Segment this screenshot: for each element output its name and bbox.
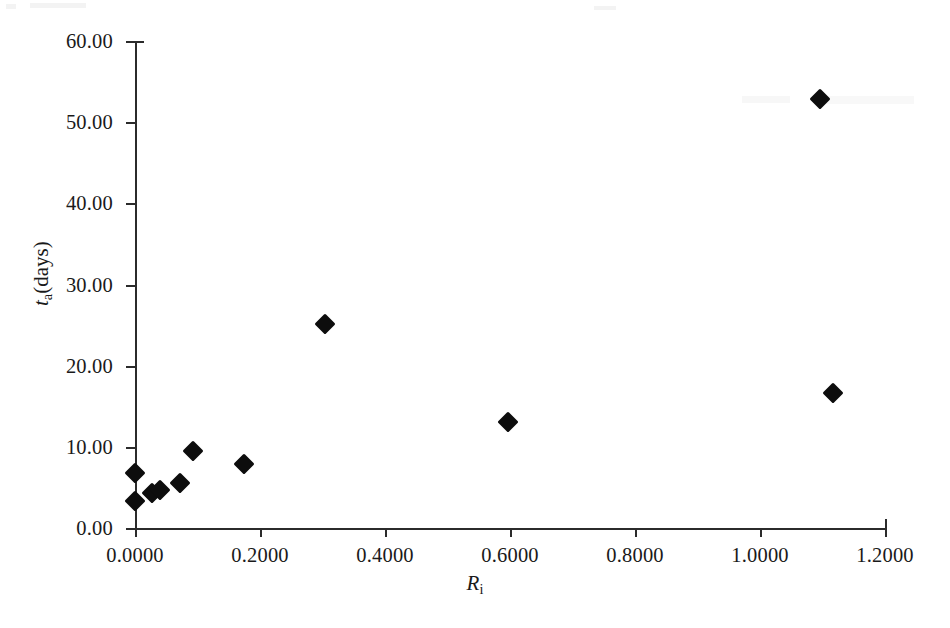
- x-axis-title-symbol: R: [467, 571, 480, 595]
- y-axis-tick: 10.00: [126, 447, 135, 449]
- y-axis-tick: 0.00: [126, 528, 135, 530]
- data-point-marker: [809, 88, 830, 109]
- y-axis-tick-label: 20.00: [66, 354, 113, 377]
- x-axis-tick-label: 0.8000: [606, 544, 664, 567]
- y-axis-tick: 40.00: [126, 203, 135, 205]
- scan-artifact: [6, 4, 16, 9]
- x-axis-tick: [260, 528, 262, 537]
- x-axis-tick: [885, 528, 887, 537]
- y-axis-title-symbol: t: [29, 300, 53, 306]
- data-point-marker: [498, 411, 519, 432]
- plot-area: 0.0010.0020.0030.0040.0050.0060.00 0.000…: [135, 41, 885, 528]
- data-point-marker: [124, 462, 145, 483]
- x-axis-title: Ri: [0, 571, 950, 598]
- x-axis-tick-label: 0.0000: [106, 544, 164, 567]
- data-point-marker: [183, 440, 204, 461]
- y-axis-tick-label: 30.00: [66, 273, 113, 296]
- scan-artifact: [30, 3, 86, 8]
- y-axis-tick: 30.00: [126, 285, 135, 287]
- data-point-marker: [169, 472, 190, 493]
- x-axis-tick-label: 1.2000: [856, 544, 914, 567]
- y-axis-tick: 50.00: [126, 122, 135, 124]
- x-axis-tick-label: 0.2000: [231, 544, 289, 567]
- y-axis-tick-label: 40.00: [66, 192, 113, 215]
- data-point-marker: [823, 383, 844, 404]
- data-point-marker: [314, 314, 335, 335]
- x-axis-tick-label: 1.0000: [731, 544, 789, 567]
- y-axis-title-subscript: a: [39, 294, 55, 300]
- scan-artifact: [594, 6, 616, 10]
- y-axis-title: ta(days): [29, 241, 56, 306]
- y-axis-tick: 20.00: [126, 366, 135, 368]
- y-axis-tick: 60.00: [126, 41, 135, 43]
- y-axis-tick-label: 60.00: [66, 30, 113, 53]
- y-axis-tick-label: 50.00: [66, 111, 113, 134]
- y-axis-line: [135, 41, 137, 530]
- scatter-plot-figure: 0.0010.0020.0030.0040.0050.0060.00 0.000…: [0, 0, 950, 628]
- data-point-marker: [233, 453, 254, 474]
- x-axis-tick: [760, 528, 762, 537]
- x-axis-tick: [385, 528, 387, 537]
- x-axis-tick-label: 0.6000: [481, 544, 539, 567]
- y-axis-tick-label: 0.00: [76, 517, 113, 540]
- x-axis-tick: [135, 528, 137, 537]
- x-axis-tick-label: 0.4000: [356, 544, 414, 567]
- y-axis-title-suffix: (days): [29, 241, 53, 293]
- x-axis-tick: [635, 528, 637, 537]
- y-axis-end-cap: [135, 41, 144, 43]
- x-axis-title-subscript: i: [479, 581, 483, 597]
- x-axis-tick: [510, 528, 512, 537]
- y-axis-tick-label: 10.00: [66, 435, 113, 458]
